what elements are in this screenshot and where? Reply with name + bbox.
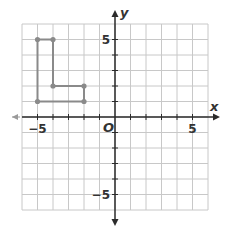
vertex-point <box>35 37 40 42</box>
axes <box>12 10 220 226</box>
y-axis-up-arrow-icon <box>112 10 119 17</box>
vertex-point <box>35 99 40 104</box>
x-axis-label: x <box>209 99 219 114</box>
x-tick-label: 5 <box>188 122 196 136</box>
y-axis-label: y <box>120 5 129 20</box>
x-tick-label: −5 <box>28 122 46 136</box>
vertex-point <box>50 83 55 88</box>
vertex-point <box>81 83 86 88</box>
x-axis-right-arrow-icon <box>213 114 220 121</box>
y-axis-down-arrow-icon <box>112 219 119 226</box>
vertex-point <box>81 99 86 104</box>
origin-label: O <box>103 120 114 135</box>
y-tick-label: 5 <box>102 33 110 47</box>
x-axis-left-arrow-icon <box>12 114 18 120</box>
y-tick-label: −5 <box>92 188 110 202</box>
vertex-point <box>50 37 55 42</box>
coordinate-plane: −555−5 x y O <box>0 0 230 246</box>
